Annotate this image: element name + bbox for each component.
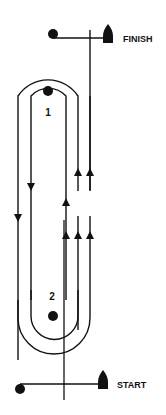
mark-2-icon xyxy=(48,311,58,321)
upwind-arrow-icon xyxy=(74,168,82,176)
upwind-arrow-icon xyxy=(86,168,94,176)
outer-course-loop xyxy=(18,80,78,360)
upwind-arrow-icon xyxy=(62,198,70,206)
start-line: START xyxy=(15,220,147,400)
finish-committee-boat-icon xyxy=(103,24,113,43)
upwind-arrow-icon xyxy=(62,231,70,239)
mark-1-label: 1 xyxy=(45,107,51,118)
mark-1-icon xyxy=(43,86,53,96)
start-committee-boat-icon xyxy=(98,370,108,389)
start-pin-mark-icon xyxy=(15,384,25,394)
downwind-arrow-icon xyxy=(14,214,22,222)
finish-label: FINISH xyxy=(123,34,153,44)
mark-2-label: 2 xyxy=(49,291,55,302)
race-course-diagram: FINISH 1 2 START xyxy=(0,0,166,415)
inner-course-loop xyxy=(31,88,66,300)
finish-line: FINISH xyxy=(48,24,153,44)
start-label: START xyxy=(117,380,147,390)
upwind-arrow-icon xyxy=(74,231,82,239)
upwind-arrow-icon xyxy=(86,231,94,239)
downwind-arrow-icon xyxy=(27,183,35,191)
